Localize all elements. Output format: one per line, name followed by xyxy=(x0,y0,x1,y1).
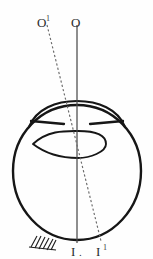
iris-left-segment xyxy=(31,121,64,124)
crystalline-lens xyxy=(33,131,106,158)
eye-optical-diagram: O 1 O I . I 1 xyxy=(0,0,153,259)
iris-right-segment xyxy=(90,121,123,124)
figure-root: O 1 O I . I 1 xyxy=(0,0,153,259)
label-image-secondary: I xyxy=(96,244,100,259)
label-image-primary-period: . xyxy=(79,246,82,258)
label-image-primary: I xyxy=(71,244,75,259)
label-object-secondary-superscript: 1 xyxy=(46,14,50,23)
muscle-insertion-hatching xyxy=(29,236,56,250)
label-object-secondary: O xyxy=(37,15,46,30)
label-image-secondary-superscript: 1 xyxy=(103,243,107,252)
label-object-primary: O xyxy=(71,15,80,30)
